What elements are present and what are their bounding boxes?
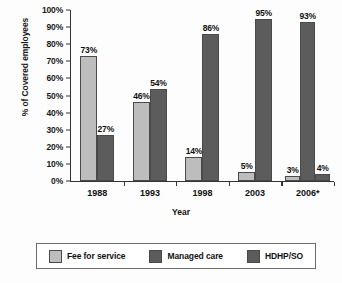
x-tick-mark — [176, 182, 177, 186]
x-tick-mark — [124, 182, 125, 186]
legend-swatch-icon — [49, 250, 62, 263]
bar-fee-for-service-1993[interactable]: 46% — [133, 102, 150, 181]
bar-value-label: 14% — [186, 146, 202, 156]
legend-item-managed-care[interactable]: Managed care — [149, 250, 223, 263]
bar-group-2003: 5% 95% — [229, 10, 282, 181]
bar-fee-for-service-2003[interactable]: 5% — [238, 172, 255, 181]
bar-group-1988: 73% 27% — [71, 10, 124, 181]
legend-label: Managed care — [167, 251, 223, 261]
bar-value-label: 54% — [150, 78, 166, 88]
bar-value-label: 27% — [98, 124, 114, 134]
x-tick-label-1988: 1988 — [87, 188, 107, 198]
bars-area: 73% 27% 46% 54% — [71, 10, 334, 181]
x-axis-title: Year — [28, 207, 334, 217]
legend-swatch-icon — [149, 250, 162, 263]
bar-value-label: 93% — [299, 11, 315, 21]
bar-value-label: 73% — [81, 45, 97, 55]
bar-fee-for-service-1988[interactable]: 73% — [80, 56, 97, 181]
x-tick-mark — [281, 182, 282, 186]
x-tick-label-1998: 1998 — [192, 188, 212, 198]
x-tick-mark — [229, 182, 230, 186]
bar-managed-care-1993[interactable]: 54% — [150, 89, 167, 181]
y-tick-label: 20% — [47, 142, 63, 152]
y-tick-label: 90% — [47, 22, 63, 32]
bar-value-label: 86% — [203, 23, 219, 33]
y-tick-label: 40% — [47, 108, 63, 118]
bar-hdhp-so-2006[interactable]: 4% — [315, 174, 330, 181]
plot-area: 100% 90% 80% 70% 60% 50% 40% 30% 20% 10%… — [28, 10, 334, 196]
legend-item-hdhp-so[interactable]: HDHP/SO — [247, 250, 303, 263]
legend-label: HDHP/SO — [265, 251, 303, 261]
y-axis-ticks: 100% 90% 80% 70% 60% 50% 40% 30% 20% 10%… — [28, 10, 70, 182]
y-tick-label: 60% — [47, 73, 63, 83]
bar-managed-care-2006[interactable]: 93% — [300, 22, 315, 181]
legend-label: Fee for service — [67, 251, 126, 261]
bar-managed-care-2003[interactable]: 95% — [255, 19, 272, 182]
bar-managed-care-1988[interactable]: 27% — [97, 135, 114, 181]
y-tick-label: 100% — [42, 5, 63, 15]
legend-item-fee-for-service[interactable]: Fee for service — [49, 250, 126, 263]
bar-chart: % of Covered employees 100% 90% 80% 70% … — [0, 0, 342, 283]
bar-value-label: 3% — [287, 165, 299, 175]
x-axis-ticks: 1988 1993 1998 2003 2006* — [71, 182, 334, 202]
bar-fee-for-service-1998[interactable]: 14% — [185, 157, 202, 181]
legend: Fee for service Managed care HDHP/SO — [36, 243, 316, 269]
bar-group-1993: 46% 54% — [124, 10, 177, 181]
x-tick-label-1993: 1993 — [140, 188, 160, 198]
x-tick-mark — [334, 182, 335, 186]
y-tick-label: 10% — [47, 159, 63, 169]
y-tick-label: 50% — [47, 91, 63, 101]
bar-group-2006: 3% 93% 4% — [281, 10, 334, 181]
legend-swatch-icon — [247, 250, 260, 263]
bar-fee-for-service-2006[interactable]: 3% — [285, 176, 300, 181]
bar-value-label: 4% — [317, 163, 329, 173]
y-tick-label: 80% — [47, 39, 63, 49]
bar-managed-care-1998[interactable]: 86% — [202, 34, 219, 181]
y-tick-label: 30% — [47, 125, 63, 135]
bar-group-1998: 14% 86% — [176, 10, 229, 181]
y-tick-label: 70% — [47, 56, 63, 66]
bar-value-label: 5% — [241, 161, 253, 171]
x-tick-label-2006: 2006* — [296, 188, 320, 198]
y-tick-label: 0% — [51, 176, 63, 186]
bar-value-label: 46% — [133, 91, 149, 101]
bar-value-label: 95% — [255, 8, 271, 18]
x-tick-label-2003: 2003 — [245, 188, 265, 198]
